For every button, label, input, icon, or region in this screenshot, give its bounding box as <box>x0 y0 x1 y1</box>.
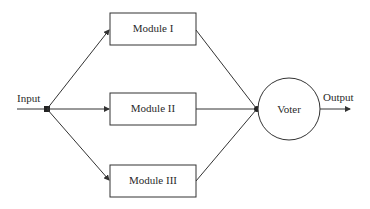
input-label: Input <box>17 92 40 104</box>
line-module-3-to-voter <box>196 110 256 181</box>
line-module-1-to-voter <box>196 30 256 108</box>
module-1: Module I <box>110 13 196 45</box>
module-3: Module III <box>110 165 196 197</box>
arrow-to-module-1 <box>47 30 109 109</box>
module-1-label: Module I <box>133 22 174 34</box>
voter-label: Voter <box>277 103 301 115</box>
module-3-label: Module III <box>129 174 177 186</box>
output-label: Output <box>323 91 354 103</box>
module-2-label: Module II <box>131 102 176 114</box>
module-2: Module II <box>110 93 196 125</box>
voter: Voter <box>258 78 320 140</box>
tmr-diagram: Input Module I Module II Module III Vote… <box>0 0 370 209</box>
arrow-to-module-3 <box>47 109 109 180</box>
